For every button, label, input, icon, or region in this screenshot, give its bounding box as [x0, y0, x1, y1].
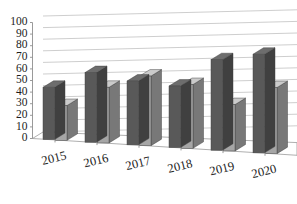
- bar-2020-series1: [253, 48, 275, 153]
- bar-side-face: [235, 98, 246, 151]
- y-tick-label: 40: [16, 85, 28, 97]
- bar-side-face: [193, 78, 204, 148]
- y-tick-label: 70: [16, 50, 28, 62]
- bar-front-face: [253, 54, 265, 153]
- y-tick-label: 50: [16, 73, 28, 85]
- y-tick-label: 20: [16, 108, 28, 120]
- bar-side-face: [139, 75, 150, 145]
- bar-chart: 1009080706050403020100 20152016201720182…: [0, 0, 297, 204]
- chart-canvas: 1009080706050403020100 20152016201720182…: [0, 0, 297, 204]
- bar-2016-series1: [85, 66, 107, 142]
- y-tick-label: 90: [16, 27, 28, 39]
- gridline-80: [43, 33, 297, 39]
- bar-front-face: [43, 87, 55, 139]
- bar-2017-series1: [127, 75, 149, 145]
- y-tick-label: 100: [10, 15, 28, 27]
- bar-front-face: [169, 86, 181, 147]
- bar-2015-series1: [43, 81, 65, 140]
- y-tick-label: 80: [16, 38, 28, 50]
- bar-side-face: [55, 81, 66, 140]
- y-tick-label: 60: [16, 62, 28, 74]
- bar-side-face: [181, 80, 192, 148]
- bar-side-face: [277, 81, 288, 154]
- y-tick-label: 0: [22, 131, 28, 143]
- bar-side-face: [67, 99, 78, 140]
- gridline-90: [43, 21, 297, 27]
- x-tick-label-2016: 2016: [82, 151, 110, 171]
- x-tick-label-2019: 2019: [208, 159, 236, 179]
- x-tick-label-2018: 2018: [166, 156, 194, 176]
- bar-2019-series1: [211, 53, 233, 150]
- bar-2018-series1: [169, 80, 191, 148]
- x-tick-label-2020: 2020: [250, 162, 278, 182]
- gridline-100: [43, 10, 297, 16]
- gridline-70: [43, 45, 297, 51]
- bar-side-face: [151, 70, 162, 146]
- bar-front-face: [211, 60, 223, 150]
- x-tick-label-2017: 2017: [124, 154, 152, 174]
- y-tick-label: 10: [16, 120, 28, 132]
- y-axis: 1009080706050403020100: [10, 15, 32, 143]
- bar-front-face: [85, 73, 97, 143]
- bar-side-face: [109, 81, 120, 143]
- y-tick-label: 30: [16, 96, 28, 108]
- x-tick-label-2015: 2015: [40, 148, 68, 168]
- bar-side-face: [265, 48, 276, 153]
- bar-side-face: [97, 66, 108, 142]
- bar-front-face: [127, 81, 139, 145]
- bar-side-face: [223, 53, 234, 150]
